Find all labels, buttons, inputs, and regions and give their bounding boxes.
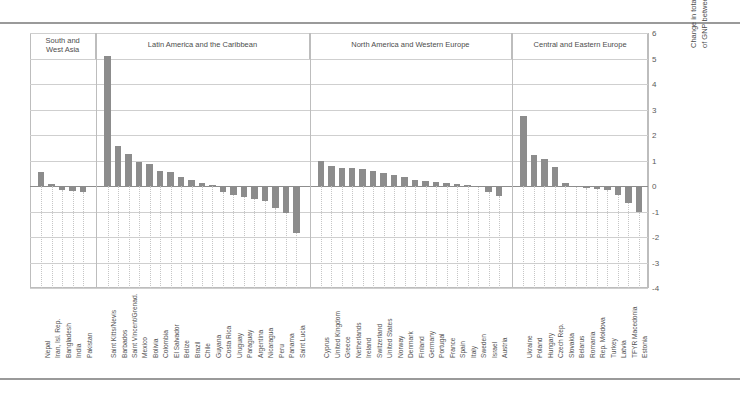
category-label: Costa Rica <box>225 326 232 358</box>
bar <box>359 169 365 186</box>
y-axis-title: Change in total public expenditure on ed… <box>688 0 711 48</box>
category-leader-line <box>555 186 556 288</box>
category-label: El Salvador <box>173 324 180 358</box>
category-label: Paraguay <box>246 330 253 358</box>
category-label: Saint Kitts/Nevis <box>110 310 117 358</box>
category-label: Chile <box>204 343 211 358</box>
category-label: Peru <box>278 344 285 358</box>
gridline--4 <box>30 288 648 289</box>
bar <box>136 162 142 186</box>
bar <box>328 166 334 186</box>
bar <box>293 186 299 233</box>
category-label: Panama <box>288 333 295 358</box>
bar <box>262 186 268 201</box>
category-leader-line <box>523 186 524 288</box>
category-leader-line <box>265 201 266 288</box>
page-rule-bottom <box>0 378 740 380</box>
category-label: Nepal <box>44 341 51 358</box>
category-leader-line <box>212 186 213 288</box>
category-leader-line <box>150 186 151 288</box>
category-leader-line <box>457 186 458 288</box>
category-label: Denmark <box>407 331 414 358</box>
category-label: Cyprus <box>323 337 330 358</box>
category-leader-line <box>139 186 140 288</box>
category-leader-line <box>618 195 619 288</box>
category-label: Rep. Moldova <box>599 317 606 358</box>
bar <box>339 168 345 186</box>
bar <box>146 164 152 186</box>
category-leader-line <box>628 203 629 288</box>
category-leader-line <box>286 213 287 288</box>
category-leader-line <box>478 187 479 288</box>
bar <box>496 186 502 196</box>
bar <box>531 155 537 186</box>
category-leader-line <box>426 186 427 288</box>
category-label: Bolivia <box>152 339 159 358</box>
category-leader-line <box>447 186 448 288</box>
category-leader-line <box>171 186 172 288</box>
bar <box>178 177 184 186</box>
category-label: Portugal <box>438 333 445 358</box>
category-label: Belarus <box>578 336 585 358</box>
category-leader-line <box>331 186 332 288</box>
category-label: Netherlands <box>355 322 362 358</box>
category-label: Saint Vincent/Grenad. <box>131 294 138 358</box>
y-tick-label-0: 0 <box>652 182 674 191</box>
category-label: Belize <box>183 340 190 358</box>
bar <box>251 186 257 199</box>
y-tick-label-3: 3 <box>652 105 674 114</box>
category-leader-line <box>405 186 406 288</box>
bar <box>157 171 163 186</box>
category-label: Ukraine <box>526 335 533 358</box>
bar <box>283 186 289 213</box>
category-leader-line <box>296 233 297 288</box>
category-label: Saint Lucia <box>299 325 306 358</box>
category-leader-line <box>321 186 322 288</box>
category-leader-line <box>181 186 182 288</box>
category-leader-line <box>192 186 193 288</box>
category-leader-line <box>108 186 109 288</box>
bar <box>241 186 247 197</box>
category-leader-line <box>544 186 545 288</box>
category-leader-line <box>52 186 53 288</box>
y-tick-label--2: -2 <box>652 233 674 242</box>
category-label: Uruguay <box>236 333 243 358</box>
category-label: Guyana <box>215 335 222 358</box>
category-label: Poland <box>536 337 543 358</box>
category-leader-line <box>534 186 535 288</box>
bar <box>167 172 173 186</box>
category-label: Estonia <box>641 336 648 358</box>
bar <box>552 167 558 186</box>
y-tick-label-5: 5 <box>652 54 674 63</box>
category-leader-line <box>244 197 245 288</box>
y-tick-label-1: 1 <box>652 156 674 165</box>
category-leader-line <box>415 186 416 288</box>
category-leader-line <box>586 188 587 288</box>
category-label: Brazil <box>194 342 201 359</box>
bar <box>520 116 526 186</box>
category-leader-line <box>73 191 74 288</box>
bar <box>104 56 110 186</box>
category-leader-line <box>363 186 364 288</box>
y-tick-label--4: -4 <box>652 284 674 293</box>
category-leader-line <box>384 186 385 288</box>
bar <box>380 173 386 186</box>
category-leader-line <box>223 192 224 288</box>
category-leader-line <box>597 189 598 288</box>
bar <box>38 172 44 186</box>
category-label: Germany <box>428 331 435 358</box>
category-leader-line <box>352 186 353 288</box>
category-leader-line <box>468 186 469 288</box>
bar <box>370 171 376 186</box>
y-tick-label--1: -1 <box>652 207 674 216</box>
category-label: Greece <box>344 336 351 358</box>
y-tick-label-4: 4 <box>652 80 674 89</box>
y-axis-title-line2: of GNP between 1999 and 2005 (percentage… <box>699 0 710 48</box>
bar <box>272 186 278 208</box>
category-label: Romania <box>589 332 596 358</box>
category-leader-line <box>499 196 500 288</box>
category-label: Ireland <box>365 338 372 358</box>
category-label: Latvia <box>620 340 627 358</box>
category-label: United Kingdom <box>334 311 341 358</box>
bar-series <box>30 33 648 288</box>
